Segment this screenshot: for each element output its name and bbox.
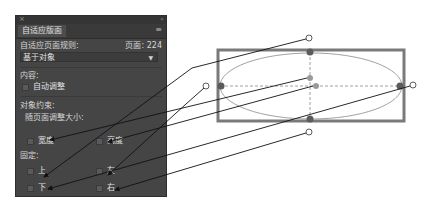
bottom-handle-icon: [307, 116, 314, 123]
object-frame: [218, 50, 404, 121]
constraint-diagram: [0, 0, 430, 210]
width-handle-icon: [313, 83, 319, 89]
top-handle-icon: [307, 49, 314, 56]
height-handle-icon: [307, 75, 313, 81]
left-handle-icon: [218, 83, 225, 90]
